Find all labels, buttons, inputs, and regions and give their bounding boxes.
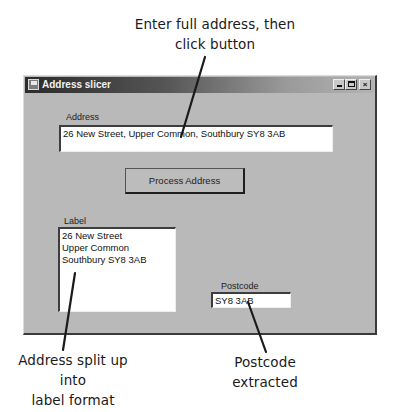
title-bar[interactable]: Address slicer × [25, 77, 374, 93]
callout-postcode-extracted: Postcode extracted [220, 352, 310, 392]
address-input[interactable]: 26 New Street, Upper Common, Southbury S… [59, 125, 333, 152]
callout-line: label format [8, 390, 138, 410]
label-field-label: Label [64, 216, 86, 226]
callout-line: Postcode [220, 352, 310, 372]
postcode-output-textbox[interactable]: SY8 3AB [211, 292, 291, 308]
label-output-textbox[interactable]: 26 New Street Upper Common Southbury SY8… [58, 227, 176, 312]
window-title: Address slicer [42, 78, 111, 92]
callout-enter-address: Enter full address, then click button [130, 14, 300, 54]
callout-line: click button [130, 34, 300, 54]
callout-line: extracted [220, 372, 310, 392]
callout-label-format: Address split up into label format [8, 350, 138, 410]
app-window-icon[interactable] [28, 79, 39, 90]
label-line: Upper Common [62, 242, 173, 254]
maximize-button[interactable] [345, 79, 357, 90]
window-controls: × [333, 79, 371, 90]
label-line: 26 New Street [62, 230, 173, 242]
label-line: Southbury SY8 3AB [62, 254, 173, 266]
close-icon: × [363, 80, 368, 89]
address-slicer-window: Address slicer × Address 26 New Street, … [23, 75, 377, 335]
close-button[interactable]: × [359, 79, 371, 90]
process-address-button[interactable]: Process Address [125, 168, 245, 194]
callout-line: Enter full address, then [130, 14, 300, 34]
postcode-field-label: Postcode [221, 281, 259, 291]
callout-line: Address split up into [8, 350, 138, 390]
minimize-icon [337, 85, 342, 87]
address-field-label: Address [66, 112, 99, 122]
minimize-button[interactable] [333, 79, 345, 90]
maximize-icon [348, 81, 355, 87]
